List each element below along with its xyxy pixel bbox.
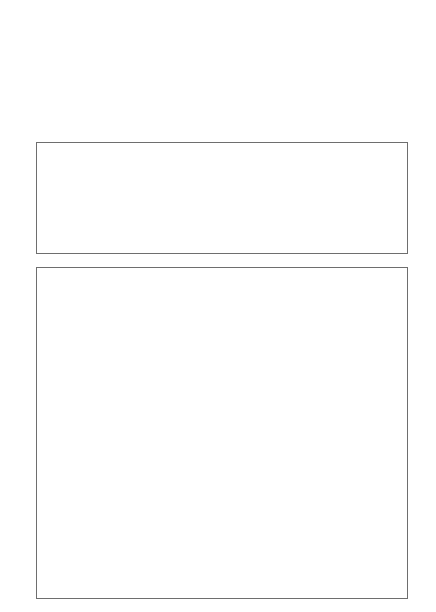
middle-striped-grid <box>36 142 408 254</box>
bottom-striped-grid <box>36 267 408 599</box>
